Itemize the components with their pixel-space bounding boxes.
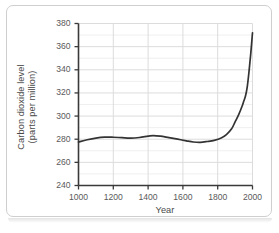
y-axis-title: Carbon dioxide level (parts per million)	[16, 42, 38, 172]
y-tick-label: 340	[49, 64, 71, 74]
y-tick-label: 320	[49, 87, 71, 97]
y-axis-title-line-1: Carbon dioxide level	[16, 42, 27, 172]
data-series-line	[79, 33, 253, 143]
x-tick-label: 1200	[98, 192, 128, 202]
x-tick-label: 1800	[203, 192, 233, 202]
y-tick-label: 240	[49, 180, 71, 190]
x-tick-label: 1600	[168, 192, 198, 202]
x-tick-label: 1000	[64, 192, 94, 202]
minor-gridlines	[79, 35, 253, 174]
major-gridlines-y	[79, 24, 253, 163]
x-tick-label: 1400	[133, 192, 163, 202]
x-tick-label: 2000	[238, 192, 268, 202]
co2-line-chart: Carbon dioxide level (parts per million)…	[0, 0, 279, 233]
y-tick-label: 260	[49, 157, 71, 167]
y-tick-label: 280	[49, 134, 71, 144]
x-axis-title: Year	[78, 205, 252, 215]
axis-ticks	[75, 24, 253, 190]
y-axis-title-line-2: (parts per million)	[27, 42, 38, 172]
y-tick-label: 300	[49, 111, 71, 121]
y-tick-label: 360	[49, 41, 71, 51]
y-tick-label: 380	[49, 18, 71, 28]
